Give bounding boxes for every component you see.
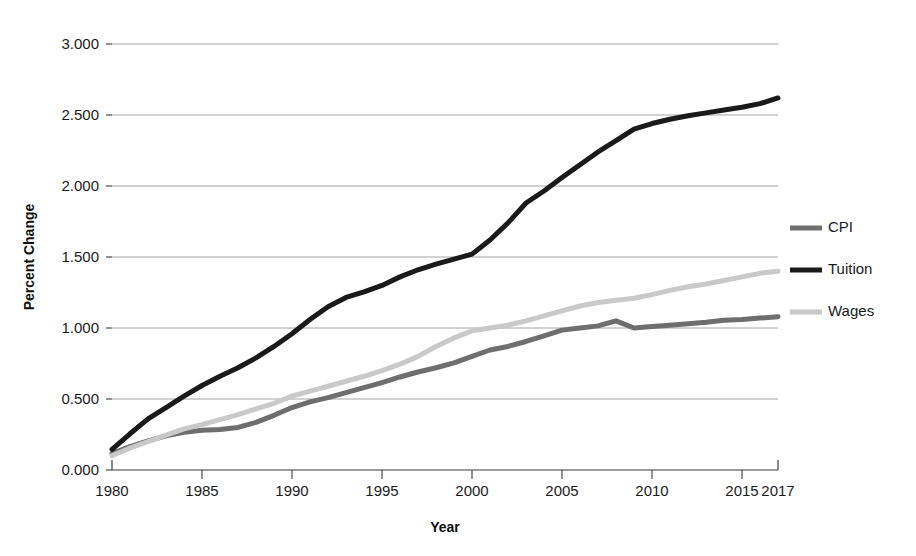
- y-axis-title: Percent Change: [21, 203, 37, 310]
- x-axis-tick-label: 2015: [725, 482, 758, 499]
- y-axis-tick-label: 1.000: [61, 319, 99, 336]
- y-axis-tick-label: 2.000: [61, 177, 99, 194]
- y-axis-tick-label: 2.500: [61, 106, 99, 123]
- legend-label: Tuition: [828, 260, 872, 277]
- x-axis-tick-label: 1995: [365, 482, 398, 499]
- y-axis-tick-label: 1.500: [61, 248, 99, 265]
- x-axis-tick-label: 1985: [185, 482, 218, 499]
- x-axis-title: Year: [430, 519, 460, 535]
- series-line-tuition: [112, 98, 778, 449]
- y-axis-tick-label: 0.000: [61, 461, 99, 478]
- legend-label: Wages: [828, 302, 874, 319]
- x-axis-tick-label: 1980: [95, 482, 128, 499]
- legend-item-tuition[interactable]: Tuition: [790, 260, 872, 277]
- x-axis-tick-label: 2000: [455, 482, 488, 499]
- legend-label: CPI: [828, 218, 853, 235]
- legend-item-wages[interactable]: Wages: [790, 302, 874, 319]
- y-axis-tick-label: 0.500: [61, 390, 99, 407]
- x-axis-tick-label: 1990: [275, 482, 308, 499]
- series-line-cpi: [112, 317, 778, 454]
- legend-item-cpi[interactable]: CPI: [790, 218, 853, 235]
- chart-figure: 0.0000.5001.0001.5002.0002.5003.00019801…: [0, 0, 916, 556]
- x-axis-tick-label: 2005: [545, 482, 578, 499]
- y-axis-tick-label: 3.000: [61, 35, 99, 52]
- line-chart: 0.0000.5001.0001.5002.0002.5003.00019801…: [0, 0, 916, 556]
- x-axis-tick-label: 2010: [635, 482, 668, 499]
- x-axis-tick-label: 2017: [761, 482, 794, 499]
